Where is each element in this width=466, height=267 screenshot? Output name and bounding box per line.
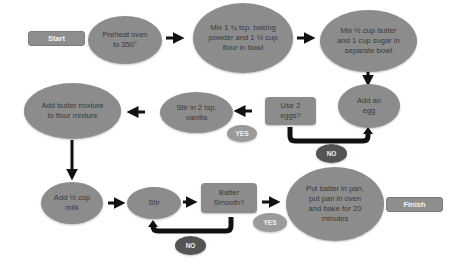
eggs-yes-text: YES (235, 129, 248, 139)
smooth-yes-text: YES (263, 218, 276, 228)
add-egg-label: Add an egg (352, 96, 386, 116)
finish-terminal: Finish (386, 197, 443, 212)
finish-label: Finish (403, 200, 425, 210)
bake-node: Put batter in pan, put pan in oven and b… (286, 167, 384, 241)
preheat-label: Preheat oven to 350° (102, 30, 148, 50)
preheat-node: Preheat oven to 350° (88, 16, 162, 64)
start-terminal: Start (28, 31, 85, 46)
eggs-no-label: NO (316, 144, 347, 163)
stir-node: Stir (127, 187, 181, 219)
add-milk-node: Add ½ cup milk (41, 182, 103, 224)
smooth-no-text: NO (186, 241, 196, 251)
smooth-yes-label: YES (253, 213, 287, 232)
stir-vanilla-node: Stir in 2 tsp. vanilla (160, 92, 233, 133)
add-milk-label: Add ½ cup milk (53, 193, 91, 213)
stir-vanilla-label: Stir in 2 tsp. vanilla (172, 103, 221, 123)
eggs-no-text: NO (327, 149, 337, 159)
arrowhead (363, 127, 373, 134)
bake-label: Put batter in pan, put pan in oven and b… (304, 184, 366, 224)
smooth-no-label: NO (175, 236, 206, 255)
arrow-smooth-no-to-stir (153, 217, 231, 231)
mix-butter-label: Mix ½ cup butter and 1 cup sugar in sepa… (336, 26, 401, 56)
batter-smooth-label: Batter Smooth? (207, 188, 251, 208)
stir-label: Stir (148, 198, 159, 208)
start-label: Start (48, 34, 65, 44)
arrow-eggs-no-to-add-egg (290, 127, 368, 141)
add-butter-mixture-node: Add butter mixture to flour mixture (24, 83, 121, 139)
use-two-eggs-label: Use 2 eggs? (273, 101, 308, 121)
add-butter-mixture-label: Add butter mixture to flour mixture (38, 101, 107, 121)
batter-smooth-decision: Batter Smooth? (201, 183, 257, 213)
mix-butter-node: Mix ½ cup butter and 1 cup sugar in sepa… (320, 10, 417, 72)
eggs-yes-label: YES (227, 125, 257, 142)
arrowhead (148, 220, 158, 227)
use-two-eggs-decision: Use 2 eggs? (265, 97, 316, 125)
mix-flour-node: Mix 1 ¾ tsp. baking powder and 1 ½ cup f… (193, 3, 293, 73)
mix-flour-label: Mix 1 ¾ tsp. baking powder and 1 ½ cup f… (207, 23, 279, 53)
add-egg-node: Add an egg (338, 84, 400, 128)
